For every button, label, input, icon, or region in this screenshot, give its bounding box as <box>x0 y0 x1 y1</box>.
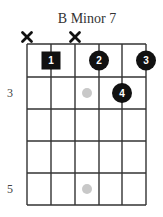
fret-number-label: 3 <box>7 86 13 100</box>
finger-number: 3 <box>143 55 149 66</box>
chord-title: B Minor 7 <box>58 11 116 26</box>
inlay-dot-icon <box>82 88 92 98</box>
finger-number: 4 <box>119 88 125 99</box>
fret-number-label: 5 <box>7 182 13 196</box>
finger-marker: 3 <box>136 51 156 71</box>
root-finger-marker: 1 <box>42 52 61 70</box>
muted-strings <box>23 33 80 42</box>
chord-diagram: B Minor 7 1234 35 <box>0 0 163 217</box>
finger-marker: 2 <box>89 51 109 71</box>
finger-number: 1 <box>48 55 54 66</box>
inlay-dot-icon <box>82 184 92 194</box>
muted-x-icon <box>23 33 32 42</box>
fret-numbers: 35 <box>7 86 13 196</box>
finger-marker: 4 <box>112 83 132 103</box>
finger-number: 2 <box>96 55 102 66</box>
muted-x-icon <box>71 33 80 42</box>
